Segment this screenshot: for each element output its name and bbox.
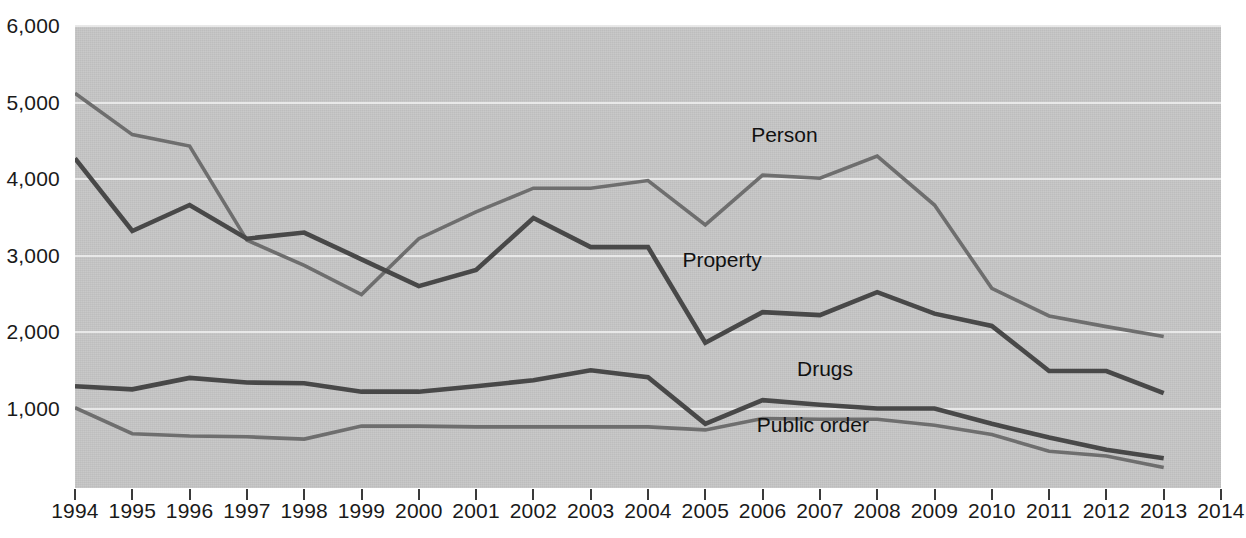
x-tick-label-2010: 2010 — [968, 500, 1016, 521]
x-tick-label-2012: 2012 — [1083, 500, 1131, 521]
x-tick-label-2005: 2005 — [682, 500, 730, 521]
x-tick-label-1996: 1996 — [166, 500, 214, 521]
y-tick-label-5000: 5,000 — [6, 92, 60, 113]
x-tick-label-2000: 2000 — [395, 500, 443, 521]
series-line-public-order — [75, 408, 1164, 468]
y-tick-label-4000: 4,000 — [6, 168, 60, 189]
line-chart: Person Property Drugs Public order 6,000… — [0, 0, 1246, 538]
y-tick-label-2000: 2,000 — [6, 321, 60, 342]
x-tick-label-1998: 1998 — [280, 500, 328, 521]
x-tick-label-1995: 1995 — [109, 500, 157, 521]
series-lines — [75, 25, 1221, 488]
x-tick-label-2006: 2006 — [739, 500, 787, 521]
series-label-person: Person — [751, 124, 818, 145]
x-tick-label-2003: 2003 — [567, 500, 615, 521]
x-tick-label-2002: 2002 — [510, 500, 558, 521]
series-label-property: Property — [682, 249, 761, 270]
x-tick-label-1997: 1997 — [223, 500, 271, 521]
series-line-person — [75, 93, 1164, 336]
series-label-public-order: Public order — [757, 414, 869, 435]
x-tick-label-2001: 2001 — [452, 500, 500, 521]
x-tick-label-2007: 2007 — [796, 500, 844, 521]
x-tick-label-2008: 2008 — [853, 500, 901, 521]
x-tick-label-2004: 2004 — [624, 500, 672, 521]
y-tick-label-3000: 3,000 — [6, 245, 60, 266]
y-tick-label-1000: 1,000 — [6, 398, 60, 419]
x-tick-label-2014: 2014 — [1197, 500, 1245, 521]
series-line-property — [75, 158, 1164, 393]
series-label-drugs: Drugs — [797, 358, 853, 379]
x-tick-label-2013: 2013 — [1140, 500, 1188, 521]
x-tick-label-2011: 2011 — [1026, 500, 1072, 521]
series-line-drugs — [75, 370, 1164, 458]
x-tick-label-1999: 1999 — [338, 500, 386, 521]
x-tick-label-1994: 1994 — [51, 500, 99, 521]
plot-area: Person Property Drugs Public order — [75, 25, 1221, 488]
y-tick-label-6000: 6,000 — [6, 15, 60, 36]
x-tick-label-2009: 2009 — [911, 500, 959, 521]
